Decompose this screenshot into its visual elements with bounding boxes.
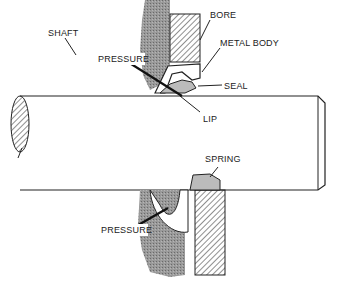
label-lip: LIP [203,114,217,124]
label-pressure-bottom: PRESSURE [101,225,152,235]
label-spring: SPRING [205,154,241,164]
shaft-end [11,96,29,152]
bore-wall-bottom [195,190,225,275]
label-pressure-top: PRESSURE [98,54,149,64]
shaft [20,96,325,190]
label-metal-body: METAL BODY [220,38,279,48]
label-seal: SEAL [224,81,248,91]
label-shaft: SHAFT [48,28,79,38]
label-bore: BORE [210,10,236,20]
bore-wall-top [170,14,200,62]
shaft-seal-diagram: BORE METAL BODY SEAL LIP SHAFT PRESSURE … [0,0,337,284]
